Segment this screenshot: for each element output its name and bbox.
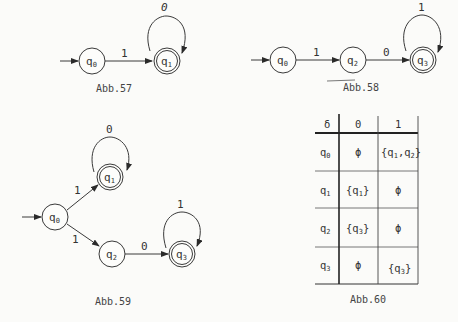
cell-value: {q1}: [346, 184, 369, 198]
figure-caption: Abb.60: [350, 294, 386, 305]
cell-value: {q1,q2}: [381, 146, 421, 160]
cell-value: ϕ: [395, 222, 401, 234]
row-state: q1: [320, 184, 331, 198]
stray-mark: [327, 80, 355, 81]
diagrams: q0 1 0 q1 Abb.57 q0 1 q2 0 1 q3 Abb.58 q…: [0, 0, 458, 322]
cell-value: {q3}: [346, 222, 369, 236]
header-symbol-0: 0: [355, 118, 361, 130]
transition-label: 1: [313, 46, 320, 59]
figure-abb58: q0 1 q2 0 1 q3 Abb.58: [251, 1, 441, 93]
row-state: q0: [320, 146, 331, 160]
transition-label: 1: [177, 198, 184, 211]
transition-label: 0: [106, 123, 113, 136]
header-symbol-1: 1: [395, 118, 401, 130]
transition-label: 0: [141, 240, 148, 253]
transition-label: 1: [121, 47, 128, 60]
header-delta: δ: [324, 118, 330, 130]
cell-value: ϕ: [355, 146, 361, 158]
transition-label: 0: [161, 1, 168, 14]
figure-abb57: q0 1 0 q1 Abb.57: [60, 1, 185, 94]
transition-label: 1: [72, 233, 79, 246]
cell-value: ϕ: [355, 259, 361, 271]
row-state: q2: [320, 222, 331, 236]
figure-abb59: q0 1 0 q1 1 q2 0 1 q3 Abb.59: [22, 123, 200, 307]
cell-value: ϕ: [395, 184, 401, 196]
cell-value: {q3}: [388, 262, 411, 276]
figure-caption: Abb.59: [95, 296, 131, 307]
self-loop-edge: [404, 15, 441, 52]
self-loop-edge: [148, 16, 185, 53]
transition-edge: [67, 185, 98, 210]
row-state: q3: [320, 259, 331, 273]
transition-label: 0: [383, 46, 390, 59]
transition-label: 1: [418, 1, 425, 14]
figure-caption: Abb.57: [96, 83, 132, 94]
figure-abb60-transition-table: δ 0 1 q0 ϕ {q1,q2} q1 {q1} ϕ q2 {q3} ϕ q…: [315, 114, 421, 305]
figure-caption: Abb.58: [343, 82, 379, 93]
transition-label: 1: [74, 184, 81, 197]
page: q0 1 0 q1 Abb.57 q0 1 q2 0 1 q3 Abb.58 q…: [0, 0, 458, 322]
